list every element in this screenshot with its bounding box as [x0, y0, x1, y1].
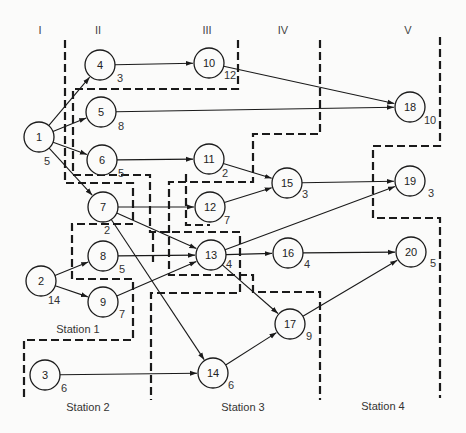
task-time-label: 7: [119, 308, 125, 320]
station-boundary-line: [169, 40, 320, 400]
node-id-label: 13: [205, 249, 217, 261]
edge-7-to-14: [111, 220, 204, 360]
node-id-label: 6: [99, 154, 105, 166]
task-node-18: 1810: [395, 92, 436, 126]
task-node-2: 214: [26, 266, 60, 306]
task-node-7: 72: [88, 192, 118, 236]
node-id-label: 9: [100, 296, 106, 308]
edge-13-to-16: [226, 253, 272, 254]
task-time-label: 3: [428, 187, 434, 199]
column-label: V: [404, 24, 412, 36]
node-id-label: 20: [405, 246, 417, 258]
task-nodes: 1521436435865728597101211212713414615316…: [24, 48, 436, 394]
station-label: Station 3: [221, 401, 264, 413]
task-time-label: 10: [424, 114, 436, 126]
edge-1-to-4: [49, 77, 90, 125]
node-id-label: 15: [281, 177, 293, 189]
edge-13-to-17: [222, 265, 278, 314]
edge-6-to-11: [117, 159, 193, 160]
node-id-label: 1: [36, 131, 42, 143]
station-boundary-line: [24, 40, 133, 400]
node-id-label: 8: [100, 250, 106, 262]
column-label: IV: [278, 24, 289, 36]
task-time-label: 9: [306, 330, 312, 342]
edge-1-to-5: [53, 118, 86, 131]
edge-3-to-14: [60, 373, 197, 375]
task-time-label: 6: [61, 382, 67, 394]
node-id-label: 14: [207, 367, 219, 379]
column-labels: IIIIIIIVV: [38, 24, 412, 36]
task-time-label: 2: [104, 224, 110, 236]
edge-14-to-17: [226, 333, 277, 365]
task-time-label: 5: [118, 167, 124, 179]
task-time-label: 7: [224, 214, 230, 226]
column-label: III: [202, 24, 211, 36]
node-id-label: 12: [204, 201, 216, 213]
task-time-label: 2: [222, 167, 228, 179]
task-node-3: 36: [30, 360, 67, 394]
task-time-label: 6: [228, 379, 234, 391]
node-id-label: 18: [404, 101, 416, 113]
edge-7-to-13: [117, 213, 197, 248]
task-time-label: 5: [430, 257, 436, 269]
task-time-label: 3: [117, 72, 123, 84]
column-label: II: [95, 24, 101, 36]
task-time-label: 5: [119, 263, 125, 275]
task-time-label: 12: [224, 69, 236, 81]
station-labels: Station 1Station 2Station 3Station 4: [56, 323, 404, 413]
node-id-label: 4: [97, 59, 103, 71]
task-time-label: 3: [302, 188, 308, 200]
task-node-10: 1012: [194, 48, 236, 81]
edge-11-to-15: [223, 163, 271, 178]
node-id-label: 16: [282, 247, 294, 259]
task-node-19: 193: [395, 166, 434, 199]
station-label: Station 4: [361, 400, 404, 412]
edge-8-to-13: [118, 255, 195, 256]
node-id-label: 7: [100, 201, 106, 213]
node-id-label: 19: [404, 175, 416, 187]
edge-4-to-10: [115, 63, 193, 64]
task-time-label: 14: [48, 294, 60, 306]
node-id-label: 2: [38, 275, 44, 287]
task-time-label: 8: [118, 120, 124, 132]
edge-1-to-7: [49, 148, 92, 195]
task-node-8: 85: [88, 241, 125, 275]
task-node-1: 15: [24, 122, 54, 167]
edge-10-to-18: [224, 66, 395, 103]
node-id-label: 11: [203, 153, 214, 165]
task-time-label: 4: [226, 258, 232, 270]
edge-15-to-19: [302, 181, 394, 182]
task-node-4: 43: [85, 50, 123, 84]
task-node-11: 112: [194, 144, 228, 179]
edge-5-to-18: [116, 107, 394, 111]
station-boundaries: [24, 37, 440, 400]
task-node-20: 205: [396, 237, 436, 269]
node-id-label: 17: [284, 318, 296, 330]
task-node-15: 153: [272, 168, 308, 200]
edge-1-to-6: [53, 142, 87, 154]
column-label: I: [38, 24, 41, 36]
task-node-12: 127: [195, 192, 230, 226]
station-label: Station 1: [56, 323, 99, 335]
station-boundary-line: [373, 37, 440, 398]
node-id-label: 5: [98, 106, 104, 118]
edge-12-to-15: [224, 188, 271, 203]
station-label: Station 2: [66, 401, 109, 413]
task-node-5: 58: [86, 97, 124, 132]
node-id-label: 10: [203, 57, 215, 69]
task-node-16: 164: [273, 238, 310, 270]
precedence-diagram: 1521436435865728597101211212713414615316…: [0, 0, 466, 433]
edge-16-to-20: [303, 252, 395, 253]
edge-13-to-19: [225, 187, 395, 250]
node-id-label: 3: [42, 369, 48, 381]
edge-17-to-20: [303, 260, 397, 316]
task-node-9: 97: [88, 287, 125, 320]
task-time-label: 4: [304, 258, 310, 270]
task-time-label: 5: [44, 155, 50, 167]
